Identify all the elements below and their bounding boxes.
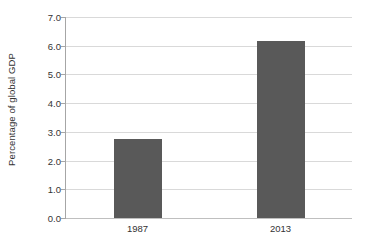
- y-axis-title-label: Percentage of global GDP: [6, 53, 17, 166]
- bar-2013: [257, 41, 305, 218]
- bar-1987: [114, 139, 162, 218]
- y-axis-tick-label: 2.0: [21, 155, 61, 166]
- y-axis-tick-label: 1.0: [21, 184, 61, 195]
- y-axis-tick-label: 3.0: [21, 126, 61, 137]
- y-axis-tick: [61, 218, 66, 219]
- gridline: [66, 103, 352, 104]
- plot-area: [66, 17, 352, 218]
- y-axis-tick-label: 6.0: [21, 40, 61, 51]
- y-axis-tick-label: 4.0: [21, 98, 61, 109]
- x-axis-tick-label: 2013: [270, 223, 291, 234]
- y-axis-tick-label: 7.0: [21, 12, 61, 23]
- y-axis-tick: [61, 189, 66, 190]
- gridline: [66, 161, 352, 162]
- bar-chart: Percentage of global GDP 0.01.02.03.04.0…: [0, 0, 369, 247]
- y-axis-tick: [61, 17, 66, 18]
- y-axis-tick-label: 0.0: [21, 213, 61, 224]
- gridline: [66, 132, 352, 133]
- y-axis-tick: [61, 103, 66, 104]
- y-axis-tick: [61, 132, 66, 133]
- gridline: [66, 218, 352, 219]
- y-axis-tick: [61, 46, 66, 47]
- y-axis-tick: [61, 74, 66, 75]
- y-axis-tick: [61, 161, 66, 162]
- gridline: [66, 17, 352, 18]
- x-axis-tick-label: 1987: [127, 223, 148, 234]
- gridline: [66, 189, 352, 190]
- y-axis-tick-label: 5.0: [21, 69, 61, 80]
- y-axis-title: Percentage of global GDP: [0, 0, 22, 218]
- gridline: [66, 74, 352, 75]
- gridline: [66, 46, 352, 47]
